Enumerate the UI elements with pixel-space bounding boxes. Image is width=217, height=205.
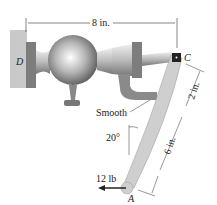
dim-2in-label: 2 in. [185, 80, 201, 100]
ball-knob [64, 100, 80, 106]
dim-6in-label: 6 in. [161, 135, 177, 155]
smooth-label: Smooth [96, 107, 127, 118]
ball [48, 35, 98, 85]
point-c-label: C [184, 52, 191, 63]
smooth-leader [130, 100, 150, 112]
dim-8in-label: 8 in. [92, 17, 110, 28]
point-d-label: D [15, 56, 24, 67]
nut-right [132, 42, 142, 78]
force-arrowhead [98, 185, 105, 191]
force-label: 12 lb [96, 173, 116, 184]
ball-stem [69, 85, 77, 100]
mechanism-diagram: 8 in. D B C A 12 lb Smooth 20° 2 in. 6 i… [0, 0, 217, 205]
point-a-label: A [127, 193, 135, 204]
angle-label: 20° [106, 132, 120, 143]
lever-shaft [142, 52, 172, 66]
cone [112, 44, 132, 76]
angle-arc [129, 127, 138, 128]
left-neck [36, 50, 50, 74]
right-neck [97, 48, 112, 74]
pin-c-dot [176, 57, 178, 59]
nut-d [26, 42, 36, 88]
